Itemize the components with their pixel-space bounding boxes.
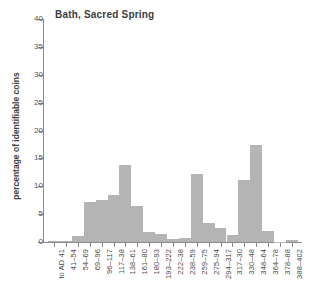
x-tick-mark (54, 243, 55, 247)
y-tick-label-wrap: 15 (0, 158, 43, 159)
bar (108, 195, 120, 242)
x-tick-mark (66, 243, 67, 247)
y-tick-label-wrap: 30 (0, 75, 43, 76)
bar (119, 165, 131, 242)
x-tick-label: 348–64 (259, 249, 268, 275)
x-tick-label: 259–75 (200, 249, 209, 275)
x-tick-label: 222–38 (176, 249, 185, 275)
bar (96, 200, 108, 242)
y-tick-label-wrap: 35 (0, 47, 43, 48)
y-tick-label-wrap: 0 (0, 242, 43, 243)
bar (238, 180, 250, 242)
bar (179, 238, 191, 242)
bar (60, 241, 72, 242)
bar (215, 228, 227, 242)
x-tick-mark (161, 243, 162, 247)
bar (191, 174, 203, 242)
plot-area (44, 19, 302, 242)
bar (131, 206, 143, 242)
bar (227, 235, 239, 242)
y-tick-label: 5 (7, 209, 43, 218)
y-tick-label: 20 (7, 126, 43, 135)
x-tick-mark (185, 243, 186, 247)
x-tick-label: 41–54 (69, 249, 78, 270)
x-tick-mark (173, 243, 174, 247)
x-tick-label: 138–61 (128, 249, 137, 275)
x-tick-mark (232, 243, 233, 247)
x-tick-mark (125, 243, 126, 247)
chart-container: Bath, Sacred Spring percentage of identi… (0, 0, 311, 307)
y-tick-label-wrap: 20 (0, 131, 43, 132)
y-tick-label-wrap: 25 (0, 103, 43, 104)
y-tick-label-wrap: 5 (0, 214, 43, 215)
bar (155, 234, 167, 242)
x-tick-label: 238–59 (188, 249, 197, 275)
y-tick-label: 0 (7, 237, 43, 246)
x-tick-mark (102, 243, 103, 247)
x-tick-label: 96–117 (105, 249, 114, 274)
bar (286, 240, 298, 242)
bar (262, 231, 274, 242)
bar (250, 145, 262, 242)
x-tick-mark (292, 243, 293, 247)
x-tick-mark (209, 243, 210, 247)
x-tick-mark (137, 243, 138, 247)
x-tick-label: 193–222 (164, 249, 173, 279)
x-tick-label: 364–78 (271, 249, 280, 275)
y-axis-label: percentage of identifiable coins (11, 36, 21, 236)
x-tick-label: 54–69 (81, 249, 90, 270)
y-tick-label-wrap: 10 (0, 186, 43, 187)
x-tick-label: 317–30 (235, 249, 244, 275)
x-tick-mark (149, 243, 150, 247)
x-tick-label: 161–80 (140, 249, 149, 275)
x-tick-mark (268, 243, 269, 247)
x-tick-mark (78, 243, 79, 247)
x-tick-mark (280, 243, 281, 247)
x-tick-label: 388–402 (295, 249, 304, 279)
y-tick-label: 30 (7, 70, 43, 79)
x-tick-mark (256, 243, 257, 247)
x-tick-mark (197, 243, 198, 247)
x-tick-mark (221, 243, 222, 247)
bar (203, 223, 215, 243)
x-tick-label: 378–88 (283, 249, 292, 275)
x-tick-mark (90, 243, 91, 247)
y-tick-label: 40 (7, 14, 43, 23)
x-tick-mark (244, 243, 245, 247)
y-tick-label: 10 (7, 181, 43, 190)
y-tick-label: 35 (7, 42, 43, 51)
y-tick-label: 15 (7, 153, 43, 162)
y-tick-label-wrap: 40 (0, 19, 43, 20)
bar (84, 202, 96, 242)
bar (167, 239, 179, 242)
x-tick-label: 275–94 (212, 249, 221, 275)
bar (72, 236, 84, 242)
x-tick-label: 117–38 (117, 249, 126, 274)
x-tick-label: 294–317 (224, 249, 233, 279)
y-tick-label: 25 (7, 98, 43, 107)
bar (48, 241, 60, 242)
bar (143, 232, 155, 242)
x-tick-label: 330–48 (247, 249, 256, 275)
x-tick-label: 69–96 (93, 249, 102, 270)
x-tick-mark (114, 243, 115, 247)
x-tick-label: 180–93 (152, 249, 161, 275)
x-tick-label: to AD 41 (57, 249, 66, 279)
